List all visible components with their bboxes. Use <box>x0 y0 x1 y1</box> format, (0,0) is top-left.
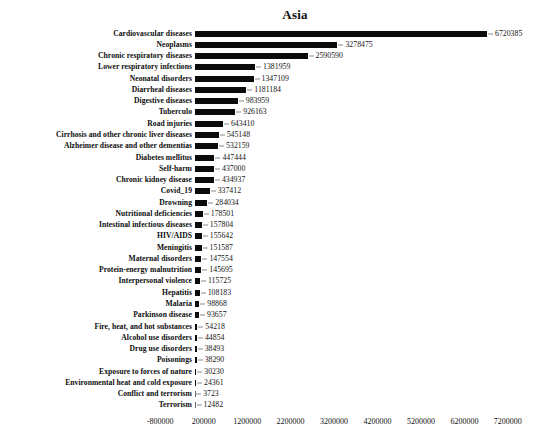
category-label: Nutritional deficiencies <box>116 210 193 218</box>
bar-value-label: 54218 <box>205 323 225 331</box>
bar-row: Fire, heat, and hot substances54218 <box>0 321 546 332</box>
bar-value-label: 24361 <box>204 379 224 387</box>
value-leader-line <box>201 281 206 282</box>
bar <box>195 369 196 375</box>
value-leader-line <box>211 191 216 192</box>
category-label: Parkinson disease <box>133 311 192 319</box>
bar <box>195 357 197 363</box>
x-axis: -800000200000120000022000003200000420000… <box>0 418 546 434</box>
bar-row: Environmental heat and cold exposure2436… <box>0 377 546 388</box>
bar-row: Nutritional deficiencies178501 <box>0 208 546 219</box>
bar-value-label: 926163 <box>243 109 266 117</box>
value-leader-line <box>197 405 202 406</box>
category-label: Intestinal infectious diseases <box>99 221 192 229</box>
category-label: Exposure to forces of nature <box>99 368 192 376</box>
bar <box>195 143 218 149</box>
bar-row: Neonatal disorders1347109 <box>0 73 546 84</box>
bar-value-label: 643410 <box>231 120 254 128</box>
category-label: Diabetes mellitus <box>136 154 192 162</box>
bar <box>195 346 197 352</box>
category-label: HIV/AIDS <box>157 233 192 241</box>
bar-row: Digestive diseases983959 <box>0 96 546 107</box>
bar <box>195 301 199 307</box>
bar-row: Terrorism12482 <box>0 400 546 411</box>
x-tick-label: 5200000 <box>407 418 435 426</box>
category-label: Diarrheal diseases <box>132 86 192 94</box>
category-label: Covid_19 <box>161 188 192 196</box>
value-leader-line <box>256 67 261 68</box>
bar <box>195 233 202 239</box>
bar-value-label: 115725 <box>208 278 231 286</box>
bar <box>195 98 238 104</box>
category-label: Interpersonal violence <box>119 278 192 286</box>
chart-title: Asia <box>0 7 546 23</box>
value-leader-line <box>204 213 209 214</box>
bar-value-label: 3278475 <box>345 41 372 49</box>
bar-value-label: 145695 <box>209 266 232 274</box>
value-leader-line <box>236 112 241 113</box>
bar-value-label: 1181184 <box>254 86 281 94</box>
value-leader-line <box>198 326 203 327</box>
chart-title-text: Asia <box>282 7 307 22</box>
category-label: Chronic respiratory diseases <box>98 52 192 60</box>
bar <box>195 53 308 59</box>
value-leader-line <box>239 101 244 102</box>
bar-row: Road injuries643410 <box>0 118 546 129</box>
bar-row: Alzheimer disease and other dementias532… <box>0 141 546 152</box>
bar <box>195 211 203 217</box>
bar <box>195 87 246 93</box>
x-tick-label: 4200000 <box>363 418 391 426</box>
category-label: Chronic kidney disease <box>116 176 192 184</box>
bar <box>195 312 199 318</box>
bar-value-label: 93657 <box>207 311 227 319</box>
bar-row: Chronic kidney disease434937 <box>0 174 546 185</box>
x-tick-label: 1200000 <box>233 418 261 426</box>
bar <box>195 177 214 183</box>
bar <box>195 109 235 115</box>
bar-value-label: 437000 <box>222 165 245 173</box>
value-leader-line <box>200 315 205 316</box>
bar <box>195 380 196 386</box>
bar-row: Poisonings38290 <box>0 355 546 366</box>
bar-row: Self-harm437000 <box>0 163 546 174</box>
bar-row: Interpersonal violence115725 <box>0 276 546 287</box>
plot-area: Cardiovascular diseases6720385Neoplasms3… <box>0 28 546 411</box>
bar-value-label: 434937 <box>222 176 245 184</box>
bar <box>195 245 202 251</box>
bar-value-label: 284034 <box>215 199 238 207</box>
bar <box>195 166 214 172</box>
bar <box>195 200 207 206</box>
bar-value-label: 151587 <box>210 244 233 252</box>
category-label: Lower respiratory infections <box>98 64 192 72</box>
value-leader-line <box>198 360 203 361</box>
x-tick-label: 3200000 <box>320 418 348 426</box>
bar-value-label: 178501 <box>211 210 234 218</box>
bar <box>195 31 487 37</box>
bar-value-label: 2590590 <box>316 52 343 60</box>
category-label: Drowning <box>159 199 192 207</box>
category-label: Conflict and terrorism <box>118 390 192 398</box>
bar-row: Maternal disorders147554 <box>0 253 546 264</box>
bar-value-label: 3723 <box>203 390 219 398</box>
bar-row: Drug use disorders38493 <box>0 343 546 354</box>
value-leader-line <box>488 33 493 34</box>
value-leader-line <box>197 382 202 383</box>
category-label: Cardiovascular diseases <box>113 30 192 38</box>
bar-row: HIV/AIDS155642 <box>0 231 546 242</box>
bar-row: Covid_19337412 <box>0 186 546 197</box>
bar <box>195 121 223 127</box>
value-leader-line <box>202 270 207 271</box>
bar-value-label: 44854 <box>205 334 225 342</box>
bar <box>195 64 255 70</box>
category-label: Poisonings <box>157 357 192 365</box>
bar <box>195 76 254 82</box>
bar-value-label: 532159 <box>226 142 249 150</box>
bar-row: Drowning284034 <box>0 197 546 208</box>
value-leader-line <box>201 292 206 293</box>
value-leader-line <box>198 349 203 350</box>
category-label: Fire, heat, and hot substances <box>94 323 192 331</box>
category-label: Neoplasms <box>157 41 192 49</box>
bar-row: Conflict and terrorism3723 <box>0 388 546 399</box>
bar <box>195 188 210 194</box>
value-leader-line <box>247 89 252 90</box>
